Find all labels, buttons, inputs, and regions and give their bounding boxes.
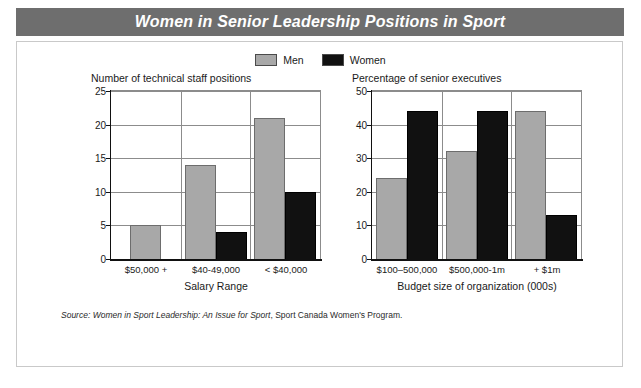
bar-group (181, 91, 251, 259)
x-tick-label: $40-49,000 (181, 264, 251, 275)
bar-women (285, 192, 316, 259)
chart-panel-technical-staff: Number of technical staff positions 0510… (61, 72, 341, 312)
bar-group-container-right (372, 91, 581, 259)
legend-item-men: Men (255, 54, 303, 66)
bar-men (515, 111, 546, 259)
bar-men (130, 225, 161, 259)
plot-area-left: 0510152025 (111, 90, 321, 259)
x-tick-label: < $40,000 (251, 264, 321, 275)
bar-group (442, 91, 512, 259)
x-axis-line-right (371, 259, 583, 261)
y-tick-mark (106, 259, 111, 260)
bar-group-container-left (111, 91, 320, 259)
x-axis-line-left (110, 259, 322, 261)
legend-swatch-men-icon (255, 54, 277, 66)
legend-item-women: Women (322, 54, 386, 66)
bar-women (546, 215, 577, 259)
chart-panel-senior-executives: Percentage of senior executives 01020304… (322, 72, 602, 312)
x-tick-label: $500,000-1m (442, 264, 512, 275)
chart-title-left: Number of technical staff positions (91, 72, 251, 84)
bar-men (446, 151, 477, 259)
bar-men (185, 165, 216, 259)
bar-group (372, 91, 442, 259)
bar-women (216, 232, 247, 259)
legend-label-women: Women (350, 54, 386, 66)
bar-men (376, 178, 407, 259)
bar-group (250, 91, 320, 259)
figure-root: Women in Senior Leadership Positions in … (0, 0, 641, 388)
x-tick-labels-left: $50,000 +$40-49,000< $40,000 (111, 264, 321, 275)
page-title: Women in Senior Leadership Positions in … (135, 13, 506, 31)
legend-swatch-women-icon (322, 54, 344, 66)
plot-area-right: 01020304050 (372, 90, 582, 259)
legend: Men Women (17, 54, 624, 66)
title-banner: Women in Senior Leadership Positions in … (16, 8, 624, 36)
bar-group (111, 91, 181, 259)
x-tick-label: + $1m (512, 264, 582, 275)
y-tick-mark (367, 259, 372, 260)
x-axis-title-left: Salary Range (111, 280, 321, 292)
source-prefix: Source: (61, 310, 93, 320)
legend-label-men: Men (283, 54, 303, 66)
bar-group (511, 91, 581, 259)
figure-frame: Men Women Number of technical staff posi… (16, 41, 623, 367)
x-tick-label: $50,000 + (111, 264, 181, 275)
bar-women (407, 111, 438, 259)
source-suffix: , Sport Canada Women's Program. (270, 310, 402, 320)
bar-men (254, 118, 285, 259)
chart-title-right: Percentage of senior executives (352, 72, 501, 84)
x-tick-label: $100–500,000 (372, 264, 442, 275)
source-title: Women in Sport Leadership: An Issue for … (93, 310, 271, 320)
source-note: Source: Women in Sport Leadership: An Is… (61, 310, 402, 320)
bar-women (477, 111, 508, 259)
x-tick-labels-right: $100–500,000$500,000-1m+ $1m (372, 264, 582, 275)
x-axis-title-right: Budget size of organization (000s) (372, 280, 582, 292)
